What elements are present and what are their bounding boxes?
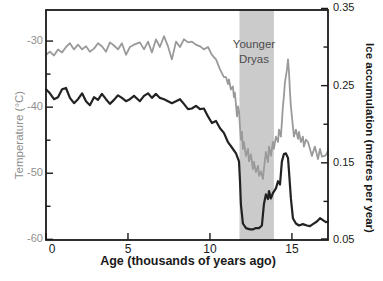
right-axis-title: Ice accumulation (metres per year) [364, 43, 376, 233]
younger-dryas-line2: Dryas [239, 53, 269, 65]
y-right-tick-label: 0.35 [333, 1, 354, 14]
x-axis-title: Age (thousands of years ago) [100, 254, 276, 268]
ice-core-climate-chart: Temperature (°C) Ice accumulation (metre… [0, 0, 383, 281]
younger-dryas-annotation: Younger Dryas [233, 37, 275, 67]
y-left-tick-label: -60 [0, 232, 43, 245]
x-axis-tick-label: 0 [49, 243, 56, 256]
y-right-tick-label: 0.15 [333, 156, 354, 169]
plot-frame [46, 10, 328, 240]
temperature-line [46, 88, 328, 229]
x-axis-tick-label: 15 [285, 243, 298, 256]
y-left-tick-label: -30 [0, 34, 43, 47]
y-right-tick-label: 0.25 [333, 79, 354, 92]
y-left-tick-label: -40 [0, 100, 43, 113]
x-axis-tick-label: 5 [125, 243, 132, 256]
y-left-tick-label: -50 [0, 166, 43, 179]
younger-dryas-line1: Younger [233, 38, 275, 50]
x-axis-tick-label: 10 [203, 243, 216, 256]
y-right-tick-label: 0.05 [333, 233, 354, 246]
chart-canvas [0, 0, 383, 281]
